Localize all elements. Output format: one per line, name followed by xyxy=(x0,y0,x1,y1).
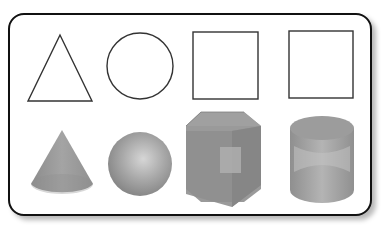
cone-solid xyxy=(31,130,93,194)
sphere-solid xyxy=(108,132,172,196)
cylinder-solid xyxy=(290,116,354,203)
square-outline-1 xyxy=(193,32,258,99)
square-outline-2 xyxy=(289,31,353,98)
shapes-diagram xyxy=(0,0,386,234)
circle-outline xyxy=(107,33,173,99)
cube-solid xyxy=(186,112,261,207)
triangle-outline xyxy=(28,35,92,101)
